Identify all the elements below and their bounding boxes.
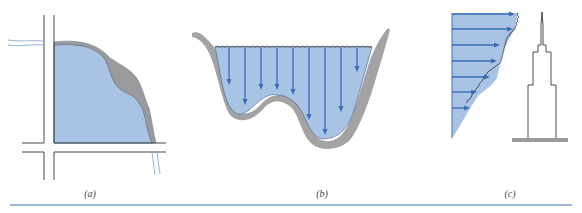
tower-building <box>528 12 556 138</box>
panel-a-flood-plan <box>8 15 166 180</box>
panel-c-label: (c) <box>504 188 515 199</box>
stream-inlet <box>8 40 44 46</box>
ground-base <box>512 138 568 142</box>
panel-b-label: (b) <box>316 188 328 199</box>
panel-c-wind-profile <box>452 12 568 143</box>
figure-canvas <box>0 0 582 213</box>
panel-b-river-section <box>192 28 390 149</box>
stream-outlet <box>152 152 160 175</box>
panel-a-label: (a) <box>84 188 96 199</box>
figure-bottom-rule <box>10 204 572 206</box>
